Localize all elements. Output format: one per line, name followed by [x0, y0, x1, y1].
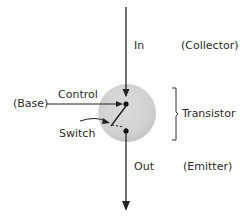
- label-emitter: (Emitter): [183, 161, 232, 173]
- arrow-out-icon: [122, 201, 130, 211]
- label-in: In: [134, 40, 144, 52]
- label-out: Out: [134, 161, 154, 173]
- contact-top: [123, 101, 128, 106]
- contact-bottom: [123, 128, 128, 133]
- transistor-bracket: [172, 88, 178, 140]
- label-switch: Switch: [59, 128, 95, 140]
- transistor-diagram: In (Collector) Control (Base) Switch Tra…: [0, 0, 243, 219]
- label-collector: (Collector): [181, 40, 239, 52]
- label-control: Control: [58, 89, 98, 101]
- label-transistor: Transistor: [182, 108, 235, 120]
- label-base: (Base): [13, 98, 48, 110]
